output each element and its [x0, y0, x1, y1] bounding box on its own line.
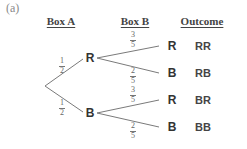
node-box-a-R: R [86, 51, 95, 65]
prob-root-B: 1 2 [59, 99, 65, 117]
prob-root-R: 1 2 [59, 57, 65, 75]
prob-B-B: 2 5 [130, 122, 136, 140]
branch-B-B [97, 113, 159, 127]
outcome-RR: RR [195, 40, 211, 52]
outcome-BR: BR [195, 94, 211, 106]
branch-R-R [97, 46, 159, 58]
prob-R-R: 3 5 [130, 31, 136, 49]
node-box-b-BB: B [168, 120, 177, 134]
outcome-BB: BB [195, 121, 211, 133]
node-box-b-RR: R [168, 39, 177, 53]
node-box-b-BR: R [168, 93, 177, 107]
branch-R-B [97, 58, 159, 73]
prob-B-R: 3 5 [130, 86, 136, 104]
prob-R-B: 2 5 [130, 67, 136, 85]
branch-B-R [97, 100, 159, 113]
node-box-a-B: B [86, 106, 95, 120]
node-box-b-RB: B [168, 66, 177, 80]
outcome-RB: RB [195, 67, 211, 79]
